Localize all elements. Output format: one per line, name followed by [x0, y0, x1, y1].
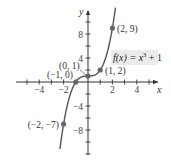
data-point	[73, 79, 78, 84]
function-label-text: f(x) = x3 + 1	[113, 51, 162, 64]
point-label: (−2, −7)	[28, 120, 59, 131]
point-labels: (−2, −7)(−1, 0)(0, 1)(1, 2)(2, 9)	[28, 24, 138, 131]
data-point	[61, 121, 66, 126]
x-axis-label: x	[156, 84, 162, 95]
data-point	[98, 67, 103, 72]
function-graph: −4−22484−4−8 (−2, −7)(−1, 0)(0, 1)(1, 2)…	[0, 0, 171, 167]
x-tick-label: 4	[134, 85, 139, 95]
y-axis-label: y	[78, 6, 84, 17]
data-point	[85, 73, 90, 78]
function-label: f(x) = x3 + 1	[111, 50, 162, 65]
x-tick-label: −4	[34, 85, 44, 95]
leader-line	[80, 70, 86, 75]
y-tick-label: −8	[73, 126, 83, 136]
x-tick-label: 2	[110, 85, 115, 95]
point-label: (0, 1)	[59, 61, 80, 72]
data-point	[110, 25, 115, 30]
x-tick-label: −2	[59, 85, 69, 95]
point-label: (2, 9)	[117, 24, 138, 35]
y-axis-arrow-icon	[86, 10, 90, 15]
point-label: (−1, 0)	[47, 70, 73, 81]
y-tick-label: −4	[73, 102, 83, 112]
point-label: (1, 2)	[105, 66, 126, 77]
y-tick-label: 8	[78, 30, 83, 40]
